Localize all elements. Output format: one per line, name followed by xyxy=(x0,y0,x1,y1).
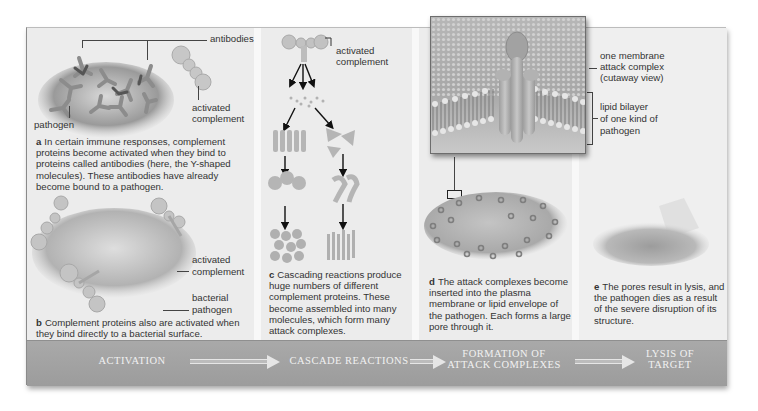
figure-frame: antibodies activated complement pathogen… xyxy=(26,27,726,385)
step-activation: ACTIVATION xyxy=(87,355,177,366)
label-mac-1: one membrane xyxy=(600,50,665,61)
caption-letter: a xyxy=(36,136,41,147)
arrow-right-icon xyxy=(575,358,635,366)
label-activated-b: activated xyxy=(192,254,230,265)
panel-divider xyxy=(254,28,261,340)
step-label-line1: FORMATION OF xyxy=(443,348,565,359)
step-label: CASCADE REACTIONS xyxy=(289,355,408,366)
caption-c: cCascading reactions produce huge number… xyxy=(269,269,411,336)
caption-b: bComplement proteins also are activated … xyxy=(36,317,252,339)
label-lipid-1: lipid bilayer xyxy=(600,101,648,112)
label-lipid-2: of one kind of xyxy=(600,113,658,124)
caption-text: The pores result in lysis, and the patho… xyxy=(594,281,724,326)
pathogen-with-pores-illustration xyxy=(421,188,571,268)
caption-letter: d xyxy=(429,276,435,287)
step-cascade: CASCADE REACTIONS xyxy=(283,355,415,366)
lysed-pathogen-illustration xyxy=(589,198,719,268)
caption-a: aIn certain immune responses, complement… xyxy=(36,136,252,192)
caption-letter: c xyxy=(269,269,274,280)
step-label-line2: ATTACK COMPLEXES xyxy=(443,359,565,370)
panel-divider xyxy=(412,28,419,340)
label-mac-3: (cutaway view) xyxy=(600,72,663,83)
membrane-attack-complex-inset xyxy=(430,16,586,154)
step-label-line1: LYSIS OF xyxy=(635,348,705,359)
caption-text: Cascading reactions produce huge numbers… xyxy=(269,269,402,336)
caption-text: In certain immune responses, complement … xyxy=(36,136,231,192)
step-formation: FORMATION OF ATTACK COMPLEXES xyxy=(443,348,565,370)
caption-d: dThe attack complexes become inserted in… xyxy=(429,276,571,332)
label-complement-c: complement xyxy=(336,56,388,67)
label-antibodies: antibodies xyxy=(210,33,254,44)
arrow-right-icon xyxy=(410,358,446,366)
antibodies-leader-line xyxy=(82,40,207,41)
caption-text: The attack complexes become inserted int… xyxy=(429,276,571,332)
label-pathogen-b: pathogen xyxy=(192,304,232,315)
label-activated-c: activated xyxy=(336,45,374,56)
process-banner: ACTIVATION CASCADE REACTIONS FORMATION O… xyxy=(27,340,727,386)
caption-letter: b xyxy=(36,317,42,328)
caption-text: Complement proteins also are activated w… xyxy=(36,317,240,339)
caption-letter: e xyxy=(594,281,599,292)
step-label-line2: TARGET xyxy=(635,359,705,370)
membrane-attack-complex-illustration xyxy=(431,17,586,154)
mac-leader-line xyxy=(589,68,597,69)
label-mac-2: attack complex xyxy=(600,61,664,72)
label-lipid-3: pathogen xyxy=(600,125,640,136)
label-complement: complement xyxy=(192,113,244,124)
label-complement-b: complement xyxy=(192,266,244,277)
arrow-right-icon xyxy=(190,358,280,366)
label-bacterial: bacterial xyxy=(192,292,228,303)
label-pathogen: pathogen xyxy=(34,119,74,130)
bacterial-pathogen-illustration xyxy=(19,198,204,318)
step-label: ACTIVATION xyxy=(98,355,165,366)
caption-e: eThe pores result in lysis, and the path… xyxy=(594,281,726,326)
label-activated: activated xyxy=(192,102,230,113)
step-lysis: LYSIS OF TARGET xyxy=(635,348,705,370)
panel-activation: antibodies activated complement pathogen… xyxy=(27,28,254,340)
panel-cascade: activated complement cCascading reaction… xyxy=(261,28,412,340)
zoom-pointer-line xyxy=(454,157,455,191)
